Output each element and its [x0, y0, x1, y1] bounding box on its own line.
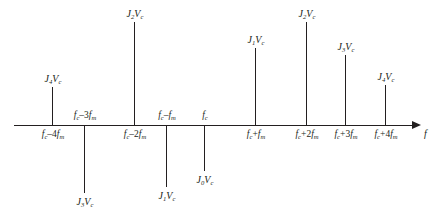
amplitude-label-line-minus-3fm: J3Vc	[77, 197, 94, 207]
frequency-tick-label-line-plus-4fm: fc+4fm	[374, 130, 397, 140]
spectral-line-line-plus-3fm	[345, 55, 346, 125]
spectral-line-line-minus-4fm	[52, 87, 53, 125]
frequency-tick-label-line-center: fc	[202, 111, 208, 121]
frequency-axis-line	[14, 125, 414, 126]
spectral-line-line-plus-2fm	[306, 22, 307, 125]
amplitude-label-line-minus-4fm: J4Vc	[45, 74, 62, 84]
frequency-tick-label-line-plus-3fm: fc+3fm	[334, 130, 357, 140]
frequency-tick-label-line-plus-1fm: fc+fm	[247, 130, 265, 140]
spectral-line-line-minus-3fm	[84, 125, 85, 193]
spectral-line-line-plus-1fm	[255, 48, 256, 125]
frequency-tick-label-line-minus-4fm: fc–4fm	[42, 130, 64, 140]
amplitude-label-line-plus-2fm: J2Vc	[299, 9, 316, 19]
frequency-axis-arrow	[412, 121, 421, 129]
amplitude-label-line-center: J0Vc	[197, 175, 214, 185]
spectral-line-line-plus-4fm	[385, 85, 386, 125]
frequency-tick-label-line-plus-2fm: fc+2fm	[295, 130, 318, 140]
frequency-tick-label-line-minus-1fm: fc–fm	[158, 111, 176, 121]
fm-spectrum-figure: f J4Vcfc–4fmJ3Vcfc–3fmJ2Vcfc–2fmJ1Vcfc–f…	[0, 0, 448, 222]
frequency-tick-label-line-minus-3fm: fc–3fm	[74, 111, 96, 121]
amplitude-label-line-plus-4fm: J4Vc	[378, 72, 395, 82]
spectral-line-line-minus-2fm	[134, 22, 135, 125]
amplitude-label-line-minus-1fm: J1Vc	[159, 191, 176, 201]
amplitude-label-line-plus-3fm: J3Vc	[338, 42, 355, 52]
frequency-tick-label-line-minus-2fm: fc–2fm	[124, 130, 146, 140]
amplitude-label-line-minus-2fm: J2Vc	[127, 9, 144, 19]
frequency-axis-label: f	[424, 128, 427, 139]
spectral-line-line-minus-1fm	[166, 125, 167, 187]
spectral-line-line-center	[204, 125, 205, 171]
amplitude-label-line-plus-1fm: J1Vc	[248, 35, 265, 45]
